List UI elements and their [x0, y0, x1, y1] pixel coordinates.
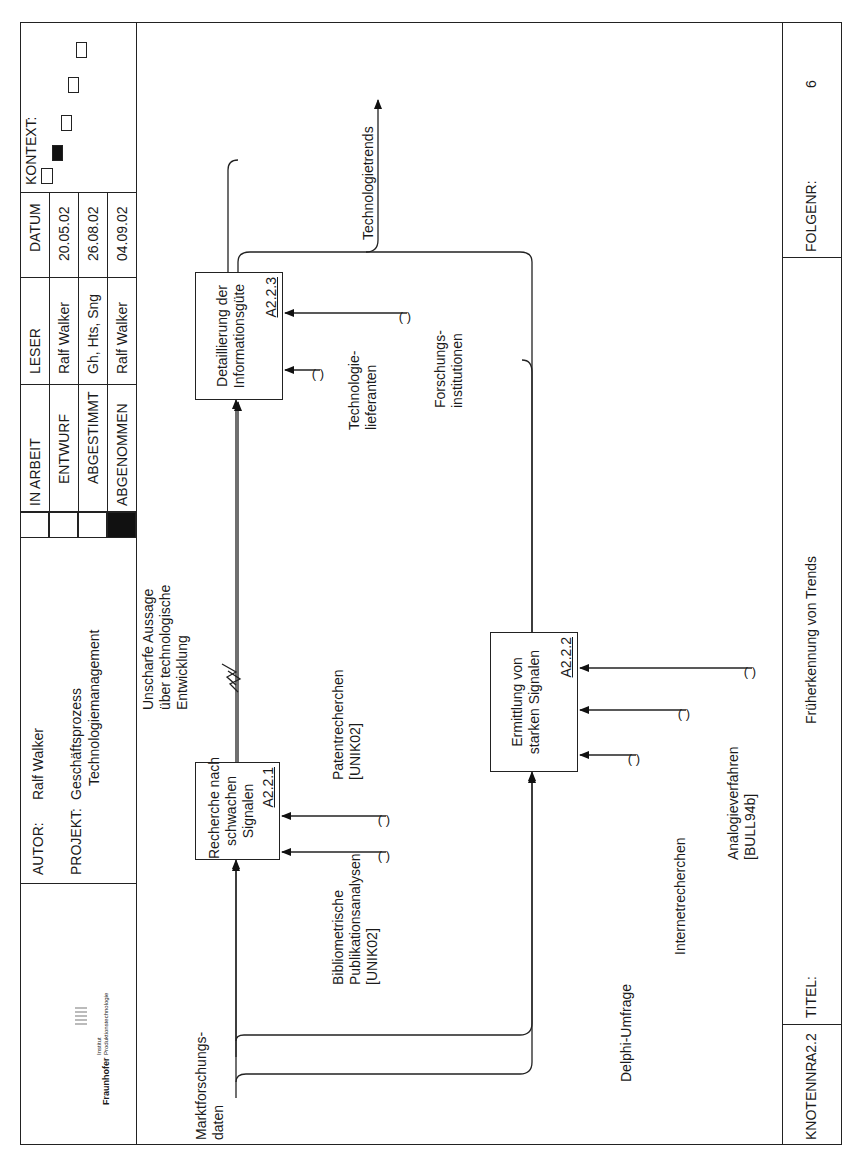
- activity-box-a223[interactable]: Detaillierung der Informationsgüte A2.2.…: [195, 272, 283, 400]
- connector-layer: [0, 0, 858, 1170]
- tunnel-marker-internet: ( ): [678, 706, 690, 722]
- activity-box-a221[interactable]: Recherche nach schwachen Signalen A2.2.1: [195, 762, 280, 860]
- idef0-sheet: Fraunhofer Institut Produktionstechnolog…: [0, 0, 858, 1170]
- label-internetrecherchen: Internetrecherchen: [672, 837, 689, 955]
- activity-title-a223: Detaillierung der Informationsgüte: [214, 273, 248, 399]
- label-patentrecherchen: Patentrecherchen [UNIK02]: [330, 669, 364, 780]
- activity-title-a221: Recherche nach schwachen Signalen: [206, 763, 257, 859]
- label-marktforschungsdaten: Marktforschungs- daten: [193, 1032, 227, 1140]
- tunnel-marker-forschung: ( ): [399, 309, 411, 325]
- label-delphi-umfrage: Delphi-Umfrage: [618, 984, 635, 1082]
- activity-id-a221: A2.2.1: [260, 767, 276, 807]
- tunnel-marker-analogie: ( ): [744, 664, 756, 680]
- label-technologielieferanten: Technologie- lieferanten: [346, 351, 380, 430]
- activity-id-a223: A2.2.3: [263, 277, 279, 317]
- tunnel-marker-delphi: ( ): [628, 751, 640, 767]
- label-technologietrends: Technologietrends: [360, 126, 377, 240]
- activity-id-a222: A2.2.2: [558, 637, 574, 677]
- tunnel-marker-techliefer: ( ): [312, 366, 324, 382]
- tunnel-marker-patent: ( ): [378, 812, 390, 828]
- activity-title-a222: Ermittlung von starken Signalen: [509, 633, 543, 771]
- label-analogieverfahren: Analogieverfahren [BULL94b]: [725, 746, 759, 860]
- label-bibliometrische: Bibliometrische Publikationsanalysen [UN…: [330, 853, 381, 985]
- label-forschungsinstitutionen: Forschungs- institutionen: [432, 330, 466, 408]
- label-unscharfe-aussage: Unscharfe Aussage über technologische En…: [140, 585, 191, 710]
- activity-box-a222[interactable]: Ermittlung von starken Signalen A2.2.2: [490, 632, 578, 772]
